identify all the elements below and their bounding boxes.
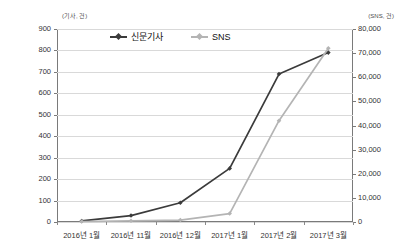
x-axis-tick-mark	[57, 222, 58, 225]
right-axis-tick-mark	[353, 198, 356, 199]
plot-area	[57, 29, 353, 222]
series-lines	[57, 29, 353, 222]
right-axis-tick-label: 70,000	[358, 49, 402, 57]
left-axis-tick-label: 500	[11, 111, 51, 119]
left-axis-tick-label: 200	[11, 175, 51, 183]
right-axis-tick-label: 10,000	[358, 194, 402, 202]
left-axis-tick-label: 300	[11, 154, 51, 162]
left-axis-tick-mark	[54, 50, 57, 51]
chart-container: (기사, 건) (SNS, 건) 신문기사 SNS 01002003004005…	[0, 0, 402, 251]
right-axis-tick-label: 50,000	[358, 97, 402, 105]
x-axis-tick-label: 2017년 2월	[254, 229, 303, 240]
right-axis-tick-label: 80,000	[358, 25, 402, 33]
left-axis-tick-label: 900	[11, 25, 51, 33]
right-axis-tick-mark	[353, 126, 356, 127]
x-axis-tick-label: 2016년 1월	[57, 229, 106, 240]
right-axis-tick-label: 0	[358, 218, 402, 226]
x-axis-tick-mark	[304, 222, 305, 225]
left-axis-tick-label: 700	[11, 68, 51, 76]
left-axis-tick-label: 0	[11, 218, 51, 226]
x-axis-tick-label: 2016년 12월	[156, 229, 205, 240]
series-line-news	[82, 53, 329, 221]
right-axis-tick-mark	[353, 101, 356, 102]
right-axis-tick-label: 60,000	[358, 73, 402, 81]
right-axis-unit-label: (SNS, 건)	[368, 11, 394, 20]
x-axis-tick-mark	[156, 222, 157, 225]
right-axis-tick-label: 30,000	[358, 146, 402, 154]
left-axis-tick-mark	[54, 201, 57, 202]
left-axis-tick-mark	[54, 115, 57, 116]
right-axis-tick-mark	[353, 53, 356, 54]
right-axis-tick-mark	[353, 150, 356, 151]
right-axis-tick-label: 40,000	[358, 122, 402, 130]
left-axis-tick-label: 100	[11, 197, 51, 205]
series-line-sns	[82, 48, 329, 221]
left-axis-tick-mark	[54, 158, 57, 159]
left-axis-tick-mark	[54, 72, 57, 73]
right-axis-tick-mark	[353, 29, 356, 30]
data-point-marker	[129, 213, 134, 218]
x-axis-tick-label: 2017년 3월	[304, 229, 353, 240]
left-axis-tick-mark	[54, 136, 57, 137]
right-axis-tick-mark	[353, 174, 356, 175]
left-axis-tick-label: 800	[11, 46, 51, 54]
left-axis-tick-label: 400	[11, 132, 51, 140]
left-axis-tick-mark	[54, 179, 57, 180]
left-axis-tick-mark	[54, 29, 57, 30]
x-axis-tick-mark	[254, 222, 255, 225]
left-axis-tick-label: 600	[11, 89, 51, 97]
left-axis-unit-label: (기사, 건)	[62, 11, 87, 20]
x-axis-tick-mark	[106, 222, 107, 225]
x-axis-tick-mark	[205, 222, 206, 225]
x-axis-tick-mark	[353, 222, 354, 225]
left-axis-tick-mark	[54, 93, 57, 94]
x-axis-tick-label: 2017년 1월	[205, 229, 254, 240]
x-axis-tick-label: 2016년 11월	[106, 229, 155, 240]
right-axis-tick-label: 20,000	[358, 170, 402, 178]
right-axis-tick-mark	[353, 77, 356, 78]
data-point-marker	[178, 218, 183, 223]
